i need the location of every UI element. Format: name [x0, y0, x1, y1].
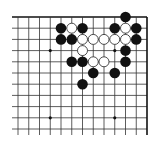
- star-point: [49, 116, 52, 119]
- black-stone: [77, 79, 88, 90]
- go-board: [0, 0, 158, 147]
- black-stone: [109, 23, 120, 34]
- white-stone: [110, 34, 120, 44]
- white-stone: [99, 34, 109, 44]
- black-stone: [131, 34, 142, 45]
- white-stone: [78, 34, 88, 44]
- white-stone: [78, 46, 88, 56]
- black-stone: [109, 68, 120, 79]
- black-stone: [120, 45, 131, 56]
- white-stone: [88, 34, 98, 44]
- white-stone: [67, 23, 77, 33]
- star-point: [113, 116, 116, 119]
- black-stone: [131, 23, 142, 34]
- black-stone: [77, 23, 88, 34]
- star-point: [49, 49, 52, 52]
- black-stone: [56, 34, 67, 45]
- white-stone: [88, 57, 98, 67]
- star-point: [113, 49, 116, 52]
- black-stone: [120, 57, 131, 68]
- black-stone: [66, 57, 77, 68]
- white-stone: [121, 23, 131, 33]
- white-stone: [121, 34, 131, 44]
- black-stone: [56, 23, 67, 34]
- black-stone: [88, 68, 99, 79]
- black-stone: [77, 57, 88, 68]
- white-stone: [99, 57, 109, 67]
- black-stone: [120, 12, 131, 23]
- black-stone: [66, 34, 77, 45]
